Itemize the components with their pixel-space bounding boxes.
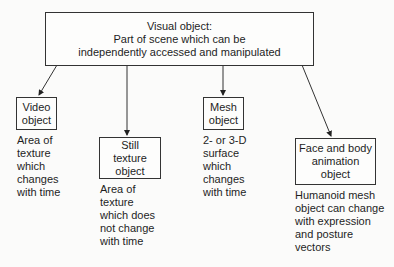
visual-object-title: Visual object: xyxy=(147,20,212,33)
still-texture-description: Area of texture which does not change wi… xyxy=(100,183,155,248)
mesh-object-description: 2- or 3-D surface which changes with tim… xyxy=(203,134,246,199)
arrow-to-face xyxy=(302,65,331,136)
video-object-label-1: Video xyxy=(23,101,51,114)
face-body-label-3: object xyxy=(321,168,350,181)
mesh-object-label-2: object xyxy=(209,114,238,127)
mesh-object-box: Mesh object xyxy=(203,97,244,130)
visual-object-line3: independently accessed and manipulated xyxy=(78,46,280,59)
visual-object-box: Visual object: Part of scene which can b… xyxy=(45,12,314,66)
still-texture-label-3: object xyxy=(115,165,144,178)
video-object-description: Area of texture which changes with time xyxy=(17,134,60,199)
face-body-description: Humanoid mesh object can change with exp… xyxy=(295,189,384,254)
still-texture-label-1: Still xyxy=(121,139,139,152)
arrow-to-video xyxy=(39,65,57,95)
video-object-box: Video object xyxy=(16,97,57,130)
still-texture-label-2: texture xyxy=(113,152,147,165)
face-body-label-2: animation xyxy=(312,155,360,168)
face-body-label-1: Face and body xyxy=(299,142,372,155)
mesh-object-label-1: Mesh xyxy=(210,101,237,114)
visual-object-line2: Part of scene which can be xyxy=(113,33,245,46)
video-object-label-2: object xyxy=(22,114,51,127)
still-texture-object-box: Still texture object xyxy=(99,137,161,179)
face-body-animation-object-box: Face and body animation object xyxy=(295,138,376,185)
